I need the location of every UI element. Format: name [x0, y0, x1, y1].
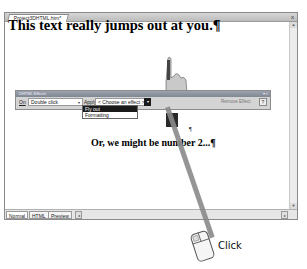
- dropdown-item-formatting[interactable]: Formatting: [83, 112, 137, 118]
- click-label: Click: [218, 240, 242, 251]
- remove-effect-button[interactable]: Remove Effect: [221, 99, 250, 104]
- view-tab-bar: Normal HTML Preview ◂ ▸: [5, 209, 297, 219]
- effect-dropdown-list: Fly out Formatting: [82, 105, 138, 119]
- vertical-scrollbar[interactable]: ▲ ▼: [289, 22, 297, 209]
- scroll-right-icon[interactable]: ▸: [281, 211, 288, 219]
- toolbar-title[interactable]: DHTML Effects ▾ ×: [16, 91, 270, 97]
- close-icon[interactable]: x: [291, 13, 294, 21]
- tab-preview-label: Preview: [51, 213, 69, 219]
- tab-preview[interactable]: Preview: [48, 211, 72, 219]
- heading-text: This text really jumps out at you.¶: [8, 17, 221, 34]
- paragraph-mark: ¶: [189, 126, 192, 132]
- toolbar-title-label: DHTML Effects: [19, 91, 46, 96]
- dhtml-effects-toolbar: DHTML Effects ▾ × On Double click ▾ Appl…: [15, 90, 271, 110]
- hand-pointer-icon: [160, 56, 190, 94]
- editor-window: Project3DHTML.htm* x ▲ ▼ Normal HTML Pre…: [4, 12, 298, 220]
- scroll-left-icon[interactable]: ◂: [75, 211, 82, 219]
- tab-normal-label: Normal: [9, 213, 25, 219]
- mouse-icon: [190, 228, 216, 264]
- on-label: On: [19, 99, 26, 105]
- help-icon[interactable]: ?: [259, 98, 267, 106]
- on-event-value: Double click: [31, 99, 58, 105]
- tab-normal[interactable]: Normal: [6, 211, 28, 219]
- second-line-text: Or, we might be number 2...¶: [91, 137, 216, 148]
- tab-html-label: HTML: [32, 213, 46, 219]
- chevron-down-icon[interactable]: ▾: [144, 98, 151, 106]
- scroll-up-icon[interactable]: ▲: [290, 22, 297, 28]
- tab-html[interactable]: HTML: [29, 211, 49, 219]
- on-event-select[interactable]: Double click ▾: [28, 98, 83, 106]
- toolbar-controls[interactable]: ▾ ×: [263, 91, 268, 97]
